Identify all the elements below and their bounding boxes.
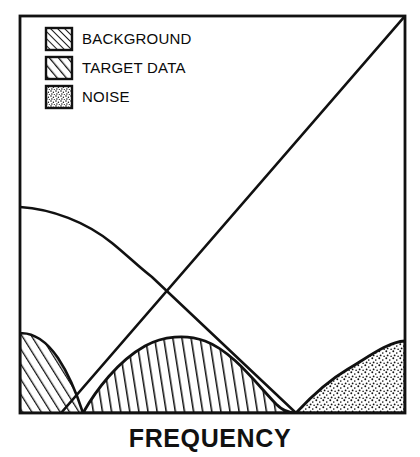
legend-item-target-data: TARGET DATA <box>46 57 186 79</box>
stipple-swatch <box>46 86 72 108</box>
legend-label-background: BACKGROUND <box>82 30 192 47</box>
legend-label-noise: NOISE <box>82 88 130 105</box>
chart-svg: BACKGROUND TARGET DATA NOISE FREQUENCY <box>0 0 420 457</box>
legend-item-noise: NOISE <box>46 86 130 108</box>
x-axis-title: FREQUENCY <box>129 424 291 452</box>
figure-container: BACKGROUND TARGET DATA NOISE FREQUENCY <box>0 0 420 457</box>
legend-label-target-data: TARGET DATA <box>82 59 186 76</box>
wide-diagonal-hatch-swatch <box>46 57 72 79</box>
legend-item-background: BACKGROUND <box>46 28 192 50</box>
dense-diagonal-hatch-swatch <box>46 28 72 50</box>
